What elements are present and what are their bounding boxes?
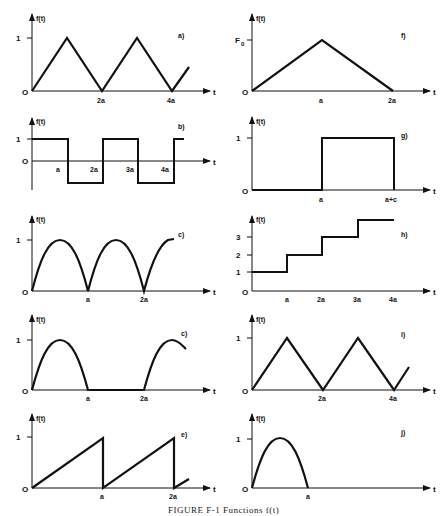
origin-label: O bbox=[22, 387, 28, 396]
y-axis-label: f(t) bbox=[256, 118, 265, 126]
y-tick-label: 1 bbox=[16, 135, 21, 144]
y-tick-label: 1 bbox=[236, 268, 241, 277]
x-tick-label: a bbox=[100, 493, 104, 500]
x-tick-label: a bbox=[319, 97, 323, 104]
figure-caption: FIGURE F-1 Functions f(t) bbox=[0, 505, 447, 515]
x-tick-label: 2a bbox=[97, 97, 105, 104]
panel-i: f(t) 1 O t 2a 4a i) bbox=[236, 315, 436, 402]
y-tick-label: 3 bbox=[236, 233, 241, 242]
x-tick-label: 2a bbox=[318, 395, 326, 402]
y-axis-label: f(t) bbox=[36, 316, 45, 324]
origin-label: O bbox=[22, 485, 28, 494]
x-tick-label: a bbox=[86, 296, 90, 303]
x-axis-label: t bbox=[213, 288, 216, 297]
curve bbox=[32, 38, 189, 91]
y-tick-label: 1 bbox=[236, 334, 241, 343]
y-axis-label: f(t) bbox=[36, 118, 45, 126]
x-tick-label: a bbox=[319, 196, 323, 203]
origin-label: O bbox=[242, 187, 248, 196]
y-tick-label: 1 bbox=[16, 336, 21, 345]
origin-label: O bbox=[242, 288, 248, 297]
panel-label: c) bbox=[181, 330, 187, 338]
x-axis-label: t bbox=[433, 88, 436, 97]
x-tick-label: a bbox=[56, 166, 60, 173]
y-axis-label: f(t) bbox=[256, 415, 265, 423]
x-axis-label: t bbox=[433, 288, 436, 297]
panel-h: f(t) 1 2 3 O t a 2a 3a 4a h) bbox=[236, 216, 436, 303]
x-axis-label: t bbox=[213, 485, 216, 494]
x-tick-label: 4a bbox=[161, 166, 169, 173]
panel-c: f(t) 1 O t a 2a c) bbox=[16, 216, 216, 303]
y-tick-label: 1 bbox=[16, 433, 21, 442]
origin-label: O bbox=[22, 288, 28, 297]
x-tick-label: 4a bbox=[389, 296, 397, 303]
panel-e: f(t) 1 O t a 2a e) bbox=[16, 414, 216, 500]
panel-label: i) bbox=[401, 331, 405, 339]
y-tick-label: 1 bbox=[16, 236, 21, 245]
panel-a: f(t) 1 O t 2a 4a a) bbox=[16, 14, 216, 104]
y-tick-label: 1 bbox=[236, 435, 241, 444]
y-axis-label: f(t) bbox=[256, 316, 265, 324]
panel-g: f(t) 1 O t a a+c g) bbox=[236, 117, 436, 203]
panel-label: f) bbox=[401, 32, 406, 40]
panel-label: g) bbox=[401, 132, 408, 140]
x-tick-label: 2a bbox=[317, 296, 325, 303]
curve bbox=[252, 138, 394, 190]
x-axis-label: t bbox=[433, 387, 436, 396]
x-axis-label: t bbox=[433, 485, 436, 494]
x-tick-label: a bbox=[306, 493, 310, 500]
x-tick-label: a bbox=[285, 296, 289, 303]
y-axis-label: f(t) bbox=[256, 15, 265, 23]
figure-functions: f(t) 1 O t 2a 4a a) f(t) F 0 O t a 2a f)… bbox=[0, 0, 447, 516]
x-tick-label: 4a bbox=[167, 97, 175, 104]
y-axis-label: f(t) bbox=[36, 216, 45, 224]
x-axis-label: t bbox=[213, 387, 216, 396]
curve bbox=[32, 239, 174, 291]
y-tick-subscript: 0 bbox=[241, 41, 245, 47]
x-tick-label: a+c bbox=[385, 196, 397, 203]
panel-j: f(t) 1 O t a j) bbox=[236, 414, 436, 500]
panel-label: c) bbox=[178, 231, 184, 239]
panel-label: b) bbox=[178, 123, 185, 131]
y-tick-label: 1 bbox=[236, 134, 241, 143]
curve bbox=[252, 438, 308, 488]
y-tick-label: F bbox=[235, 36, 240, 45]
y-axis-label: f(t) bbox=[256, 216, 265, 224]
panel-d: f(t) 1 O t a 2a c) bbox=[16, 315, 216, 402]
origin-label: O bbox=[242, 485, 248, 494]
origin-label: O bbox=[22, 157, 28, 166]
x-tick-label: 2a bbox=[140, 296, 148, 303]
x-tick-label: 2a bbox=[388, 97, 396, 104]
origin-label: O bbox=[22, 88, 28, 97]
x-tick-label: 3a bbox=[353, 296, 361, 303]
x-tick-label: a bbox=[86, 395, 90, 402]
curve bbox=[32, 340, 186, 390]
curve bbox=[252, 338, 409, 390]
panel-label: h) bbox=[401, 231, 408, 239]
x-tick-label: 4a bbox=[389, 395, 397, 402]
panel-label: j) bbox=[400, 429, 405, 437]
y-tick-label: 2 bbox=[236, 251, 241, 260]
curve bbox=[32, 438, 189, 488]
x-tick-label: 2a bbox=[140, 395, 148, 402]
curve bbox=[252, 40, 393, 91]
panel-f: f(t) F 0 O t a 2a f) bbox=[235, 14, 436, 104]
panel-label: a) bbox=[178, 32, 184, 40]
x-tick-label: 2a bbox=[169, 493, 177, 500]
y-axis-label: f(t) bbox=[36, 15, 45, 23]
panel-label: e) bbox=[181, 431, 187, 439]
curve bbox=[252, 220, 394, 272]
x-tick-label: 2a bbox=[90, 166, 98, 173]
y-tick-label: 1 bbox=[16, 34, 21, 43]
x-tick-label: 3a bbox=[126, 166, 134, 173]
y-axis-label: f(t) bbox=[36, 415, 45, 423]
origin-label: O bbox=[242, 88, 248, 97]
origin-label: O bbox=[242, 387, 248, 396]
x-axis-label: t bbox=[213, 158, 216, 167]
x-axis-label: t bbox=[213, 88, 216, 97]
panel-b: f(t) 1 O t a 2a 3a 4a b) bbox=[16, 118, 216, 190]
x-axis-label: t bbox=[433, 187, 436, 196]
